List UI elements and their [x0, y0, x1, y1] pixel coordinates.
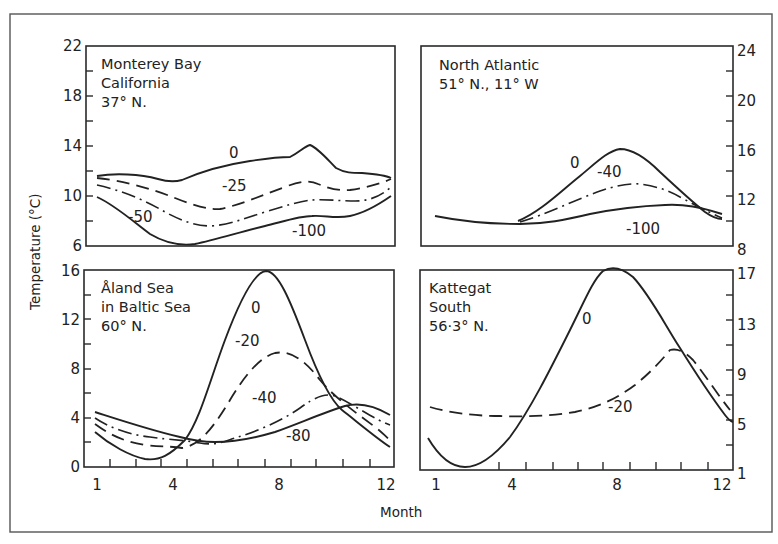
panel-title-line: 37° N. [101, 94, 147, 110]
y-tick-label: 1 [737, 465, 747, 483]
y-tick-label: 6 [72, 237, 82, 255]
curve-label: -100 [626, 220, 660, 238]
y-tick-label: 18 [63, 87, 82, 105]
y-tick-label: 16 [737, 142, 756, 160]
panel-title-line: Monterey Bay [101, 56, 202, 72]
panel-title-line: South [429, 299, 471, 315]
y-tick-label: 14 [63, 137, 82, 155]
figure-canvas: 22 18 14 10 6 Monterey Bay California 37… [0, 0, 778, 544]
curve-label: -100 [292, 222, 326, 240]
curve-label: -25 [222, 177, 247, 195]
panel-title-line: Kattegat [429, 280, 492, 296]
curve-80m [95, 404, 390, 442]
y-axis-title: Temperature (°C) [27, 193, 43, 311]
curve-label: 0 [570, 154, 580, 172]
y-tick-label: 12 [737, 191, 756, 209]
curve-20m [430, 349, 730, 416]
curve-label: 0 [251, 299, 261, 317]
curve-label: 0 [229, 144, 239, 162]
curve-0m [97, 145, 391, 181]
curve-label: -20 [608, 398, 633, 416]
y-tick-label: 13 [737, 316, 756, 334]
curve-100m [435, 205, 722, 224]
panel-aland-sea: 16 12 8 4 0 1 4 8 12 Åland Sea in Baltic… [61, 262, 396, 494]
y-tick-label: 22 [63, 37, 82, 55]
curve-label: -40 [597, 163, 622, 181]
y-ticks [86, 71, 93, 221]
x-tick-label: 4 [168, 476, 178, 494]
panel-title-line: 51° N., 11° W [439, 76, 539, 92]
y-tick-label: 12 [61, 311, 80, 329]
y-tick-label: 0 [70, 458, 80, 476]
y-tick-label: 17 [737, 265, 756, 283]
panel-north-atlantic: 24 20 16 12 8 North Atlantic 51° N., 11°… [421, 42, 756, 259]
y-tick-label: 10 [63, 187, 82, 205]
curve-label: -80 [286, 427, 311, 445]
y-tick-label: 20 [737, 92, 756, 110]
x-axis-title: Month [380, 504, 422, 520]
x-tick-label: 12 [712, 476, 731, 494]
y-tick-label: 4 [70, 409, 80, 427]
panel-title-line: Åland Sea [101, 280, 174, 296]
curve-label: 0 [582, 310, 592, 328]
x-tick-label: 12 [376, 476, 395, 494]
outer-border [10, 14, 772, 532]
y-tick-label: 24 [737, 42, 756, 60]
panel-title-line: in Baltic Sea [101, 299, 191, 315]
panel-title-line: 56·3° N. [429, 318, 489, 334]
panel-monterey-bay: 22 18 14 10 6 Monterey Bay California 37… [63, 37, 395, 255]
x-tick-label: 8 [612, 476, 622, 494]
curve-label: -20 [235, 332, 260, 350]
x-ticks [499, 462, 708, 470]
y-tick-label: 9 [737, 366, 747, 384]
x-tick-label: 8 [274, 476, 284, 494]
panel-title-line: California [101, 75, 170, 91]
panel-kattegat-south: 17 13 9 5 1 1 4 8 12 Kattegat South 56·3… [420, 265, 756, 494]
y-tick-label: 8 [70, 360, 80, 378]
x-tick-label: 1 [92, 476, 102, 494]
panel-title-line: North Atlantic [439, 57, 539, 73]
x-tick-label: 1 [431, 476, 441, 494]
x-tick-label: 4 [507, 476, 517, 494]
curve-40m [520, 184, 722, 222]
y-tick-label: 5 [737, 416, 747, 434]
y-tick-label: 8 [737, 241, 747, 259]
curve-40m [95, 395, 390, 444]
curve-20m [95, 352, 390, 448]
y-ticks [84, 295, 91, 442]
panel-title-line: 60° N. [101, 318, 147, 334]
y-tick-label: 16 [61, 262, 80, 280]
curve-label: -40 [252, 389, 277, 407]
curve-label: -50 [128, 208, 153, 226]
curve-0m [428, 268, 733, 467]
y-ticks [726, 71, 733, 221]
